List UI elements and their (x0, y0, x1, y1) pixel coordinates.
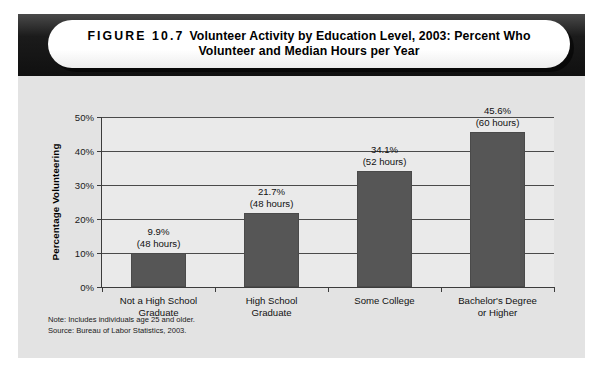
figure-title-line-2: Volunteer and Median Hours per Year (198, 44, 419, 58)
y-axis-tick-label: 20% (75, 214, 94, 225)
category-label-line: Bachelor's Degree (458, 295, 537, 307)
y-axis-tick-label: 0% (80, 282, 94, 293)
source-line: Source: Bureau of Labor Statistics, 2003… (48, 325, 195, 336)
bar-hours-label: (48 hours) (250, 198, 294, 209)
y-axis-tick (97, 151, 102, 152)
x-axis-tick (441, 287, 442, 292)
figure-footnotes: Note: Includes individuals age 25 and ol… (48, 314, 195, 336)
figure-card: FIGURE 10.7Volunteer Activity by Educati… (18, 14, 585, 358)
figure-title: FIGURE 10.7Volunteer Activity by Educati… (87, 29, 530, 60)
y-axis-tick (97, 185, 102, 186)
x-axis-tick (215, 287, 216, 292)
x-axis-tick (102, 287, 103, 292)
bar-value-label: 21.7%(48 hours) (250, 186, 294, 209)
x-axis-tick (554, 287, 555, 292)
category-label-line: Not a High School (120, 295, 197, 307)
y-axis-tick (97, 219, 102, 220)
x-axis-category-label: Bachelor's Degreeor Higher (458, 295, 537, 319)
bar (244, 213, 299, 287)
bar (131, 253, 186, 287)
category-label-line: Graduate (246, 307, 298, 319)
bar-value-label: 9.9%(48 hours) (137, 226, 181, 249)
x-axis-category-label: High SchoolGraduate (246, 295, 298, 319)
x-axis-tick (328, 287, 329, 292)
y-axis-tick-label: 10% (75, 248, 94, 259)
bar (357, 171, 412, 287)
bar-hours-label: (52 hours) (363, 156, 407, 167)
category-label-line: Some College (354, 295, 414, 307)
bar (470, 132, 525, 287)
y-axis-tick-label: 50% (75, 112, 94, 123)
y-axis-title: Percentage Volunteering (48, 117, 62, 287)
figure-header-band: FIGURE 10.7Volunteer Activity by Educati… (18, 14, 585, 76)
bar-percent-label: 9.9% (148, 226, 170, 237)
bar-hours-label: (48 hours) (137, 238, 181, 249)
category-label-line: High School (246, 295, 298, 307)
plot-area: 0%10%20%30%40%50% 9.9%(48 hours)21.7%(48… (101, 117, 554, 288)
figure-title-plate: FIGURE 10.7Volunteer Activity by Educati… (48, 20, 570, 68)
bar-value-label: 34.1%(52 hours) (363, 144, 407, 167)
y-axis-tick (97, 117, 102, 118)
chart-body: Percentage Volunteering 0%10%20%30%40%50… (18, 76, 585, 358)
figure-title-line-1: Volunteer Activity by Education Level, 2… (189, 29, 530, 43)
bar-percent-label: 45.6% (484, 105, 511, 116)
figure-number-label: FIGURE 10.7 (87, 29, 184, 43)
y-axis-tick-label: 30% (75, 180, 94, 191)
bar-percent-label: 34.1% (371, 144, 398, 155)
bar-percent-label: 21.7% (258, 186, 285, 197)
category-label-line: or Higher (458, 307, 537, 319)
y-axis-tick-label: 40% (75, 146, 94, 157)
y-axis-tick (97, 253, 102, 254)
x-axis-category-label: Some College (354, 295, 414, 307)
bar-hours-label: (60 hours) (476, 117, 520, 128)
note-line: Note: Includes individuals age 25 and ol… (48, 314, 195, 325)
bar-value-label: 45.6%(60 hours) (476, 105, 520, 128)
